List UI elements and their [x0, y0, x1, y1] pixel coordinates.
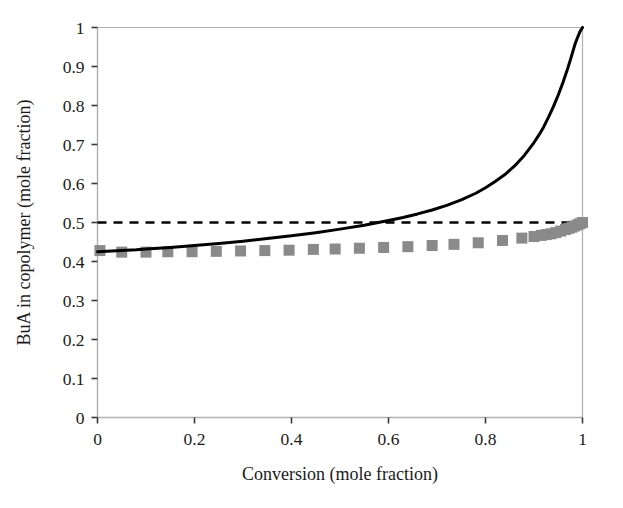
data-point-marker — [378, 242, 389, 253]
data-point-marker — [577, 217, 588, 228]
data-point-marker — [354, 243, 365, 254]
y-tick-label: 0.6 — [63, 174, 85, 194]
data-point-marker — [211, 246, 222, 257]
x-axis-title: Conversion (mole fraction) — [242, 464, 438, 485]
data-point-marker — [235, 245, 246, 256]
data-point-marker — [473, 237, 484, 248]
data-point-marker — [308, 244, 319, 255]
y-tick-label: 1 — [76, 18, 85, 38]
data-point-marker — [259, 245, 270, 256]
x-tick-label: 0 — [93, 429, 102, 449]
y-axis-title: BuA in copolymer (mole fraction) — [14, 100, 35, 346]
data-point-marker — [448, 239, 459, 250]
data-point-marker — [427, 240, 438, 251]
data-point-marker — [284, 245, 295, 256]
y-tick-label: 0.7 — [63, 135, 85, 155]
x-tick-label: 1 — [578, 429, 587, 449]
x-tick-label: 0.8 — [475, 429, 497, 449]
y-tick-label: 0.5 — [63, 213, 85, 233]
y-tick-label: 0.3 — [63, 291, 85, 311]
data-point-marker — [330, 244, 341, 255]
chart-plot-svg: 00.10.20.30.40.50.60.70.80.91 00.20.40.6… — [0, 0, 623, 508]
data-point-marker — [187, 246, 198, 257]
y-tick-label: 0.9 — [63, 57, 85, 77]
data-point-marker — [497, 235, 508, 246]
y-tick-label: 0.2 — [63, 330, 85, 350]
data-point-marker — [402, 241, 413, 252]
x-tick-label: 0.2 — [184, 429, 206, 449]
chart-figure: 00.10.20.30.40.50.60.70.80.91 00.20.40.6… — [0, 0, 623, 508]
y-tick-label: 0.4 — [63, 252, 85, 272]
y-tick-label: 0.1 — [63, 369, 85, 389]
x-tick-label: 0.4 — [281, 429, 303, 449]
y-tick-label: 0.8 — [63, 96, 85, 116]
data-point-marker — [516, 233, 527, 244]
y-tick-label: 0 — [76, 408, 85, 428]
x-tick-label: 0.6 — [378, 429, 400, 449]
